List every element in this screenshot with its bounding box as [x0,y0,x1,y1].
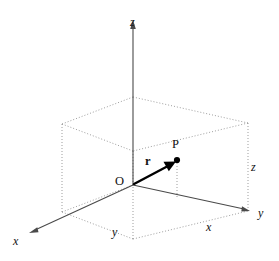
dimension-label-y: y [112,226,117,238]
y-axis-arrowhead [241,206,250,211]
dimension-label-z: z [251,161,256,173]
axes-group [29,20,250,233]
y-axis-line [133,185,244,209]
box-top-edge-left-back [62,97,133,124]
reference-box [62,97,248,239]
origin-label: O [115,175,124,188]
x-axis-arrowhead [29,227,39,233]
box-bottom-edge-back-left [62,185,133,212]
x-axis-line [35,185,133,230]
y-axis-label: y [258,207,263,219]
box-top-edge-back-right [133,97,248,123]
z-axis-label: z [130,16,135,28]
coordinate-system-figure: z x y O P r y x z [0,0,279,261]
point-p-dot [174,157,180,163]
box-top-edge-right-front [133,123,248,151]
vector-r-shaft [134,166,168,184]
box-bottom-edge-front-right [133,211,248,239]
dimension-label-x: x [206,221,211,233]
x-axis-label: x [13,235,18,247]
box-top-edge-front-left [62,124,133,151]
box-bottom-edge-left-front [62,212,133,239]
position-vector [134,162,176,185]
point-p-label: P [172,138,179,151]
vector-r-label: r [145,155,151,168]
figure-canvas [0,0,279,261]
